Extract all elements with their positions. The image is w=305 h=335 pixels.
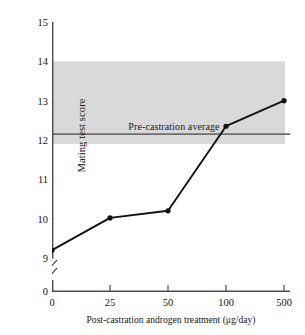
data-point-25 bbox=[107, 215, 112, 220]
x-tick-label-500: 500 bbox=[276, 297, 292, 308]
x-tick-label-0: 0 bbox=[49, 297, 54, 308]
y-axis-title: Mating test score bbox=[76, 61, 87, 211]
y-tick-label-13: 13 bbox=[38, 95, 49, 106]
chart-figure: 1514131211109 0 02550100500 Pre-castrati… bbox=[0, 0, 305, 335]
y-tick-label-10: 10 bbox=[38, 213, 49, 224]
data-point-100 bbox=[223, 124, 228, 129]
x-tick-label-50: 50 bbox=[163, 297, 174, 308]
y-tick-label-11: 11 bbox=[38, 174, 48, 185]
chart-plot-svg bbox=[52, 22, 290, 292]
x-axis-title: Post-castration androgen treatment (μg/d… bbox=[52, 314, 290, 325]
x-axis-ticks bbox=[52, 285, 284, 291]
x-tick-label-100: 100 bbox=[218, 297, 234, 308]
y-axis-origin-label: 0 bbox=[43, 286, 48, 297]
data-point-50 bbox=[165, 208, 170, 213]
x-tick-label-25: 25 bbox=[105, 297, 116, 308]
y-tick-label-15: 15 bbox=[38, 17, 49, 28]
data-point-500 bbox=[281, 98, 286, 103]
plot-area: 1514131211109 0 02550100500 Pre-castrati… bbox=[52, 22, 290, 292]
y-axis-break-icon bbox=[52, 260, 57, 278]
y-tick-label-12: 12 bbox=[38, 135, 49, 146]
pre-castration-average-annotation: Pre-castration average bbox=[128, 121, 219, 132]
y-tick-label-14: 14 bbox=[38, 56, 49, 67]
y-tick-label-9: 9 bbox=[43, 253, 48, 264]
